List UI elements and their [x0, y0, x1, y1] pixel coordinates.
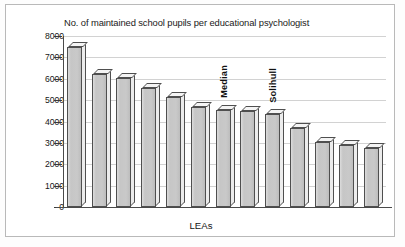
y-tick-mark-1000	[54, 186, 62, 187]
gridline-7000	[64, 57, 386, 58]
y-tick-mark-5000	[54, 100, 62, 101]
plot-area: MedianSolihull	[64, 36, 386, 207]
bar	[240, 106, 255, 207]
y-tick-mark-6000	[54, 79, 62, 80]
bar	[166, 92, 181, 207]
bar	[216, 105, 231, 207]
chart-title: No. of maintained school pupils per educ…	[64, 17, 309, 28]
annotation-solihull: Solihull	[268, 68, 278, 103]
bar-front-face	[240, 111, 255, 207]
bar-front-face	[265, 114, 280, 207]
y-tick-mark-8000	[54, 36, 62, 37]
bar	[116, 73, 131, 207]
bar-front-face	[339, 145, 354, 207]
bar-front-face	[67, 47, 82, 207]
annotation-median: Median	[219, 65, 229, 98]
bar-front-face	[216, 110, 231, 207]
bar-front-face	[364, 148, 379, 207]
y-tick-mark-7000	[54, 57, 62, 58]
bar-front-face	[116, 78, 131, 207]
bar-front-face	[141, 88, 156, 207]
y-tick-mark-4000	[54, 122, 62, 123]
bar	[191, 102, 206, 207]
bar	[92, 69, 107, 207]
chart-page: No. of maintained school pupils per educ…	[0, 0, 405, 247]
bar	[364, 143, 379, 207]
gridline-0	[64, 207, 386, 208]
gridline-5000	[64, 100, 386, 101]
gridline-8000	[64, 36, 386, 37]
bar	[315, 137, 330, 207]
bar	[290, 123, 305, 207]
bar	[339, 140, 354, 207]
y-tick-mark-3000	[54, 143, 62, 144]
bar	[141, 83, 156, 207]
bar	[67, 42, 82, 207]
chart-plate: No. of maintained school pupils per educ…	[5, 4, 395, 237]
bar	[265, 109, 280, 207]
y-axis: 800070006000500040003000200010000	[6, 36, 64, 207]
bar-front-face	[315, 142, 330, 207]
x-axis-label: LEAs	[6, 220, 396, 231]
bar-front-face	[166, 97, 181, 207]
bar-front-face	[92, 74, 107, 207]
bar-front-face	[290, 128, 305, 207]
y-tick-mark-2000	[54, 164, 62, 165]
bar-front-face	[191, 107, 206, 207]
